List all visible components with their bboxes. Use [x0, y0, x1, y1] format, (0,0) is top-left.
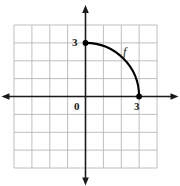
- x-axis-arrow-left: [2, 93, 10, 100]
- y-axis-arrow-up: [82, 5, 89, 13]
- coordinate-plane: [0, 0, 180, 186]
- function-curve-f: [86, 43, 140, 97]
- x-intercept-label: 3: [134, 101, 140, 112]
- y-axis: [82, 5, 89, 186]
- curve-path: [86, 43, 140, 97]
- point-y-intercept: [83, 40, 89, 46]
- point-x-intercept: [136, 94, 142, 100]
- curve-name-label: f: [123, 46, 126, 58]
- origin-label: 0: [74, 101, 80, 112]
- y-axis-arrow-down: [82, 178, 89, 186]
- x-axis-arrow-right: [171, 93, 179, 100]
- x-axis: [2, 93, 179, 100]
- y-intercept-label: 3: [72, 37, 78, 48]
- graph-figure: 3 0 3 f: [0, 0, 180, 186]
